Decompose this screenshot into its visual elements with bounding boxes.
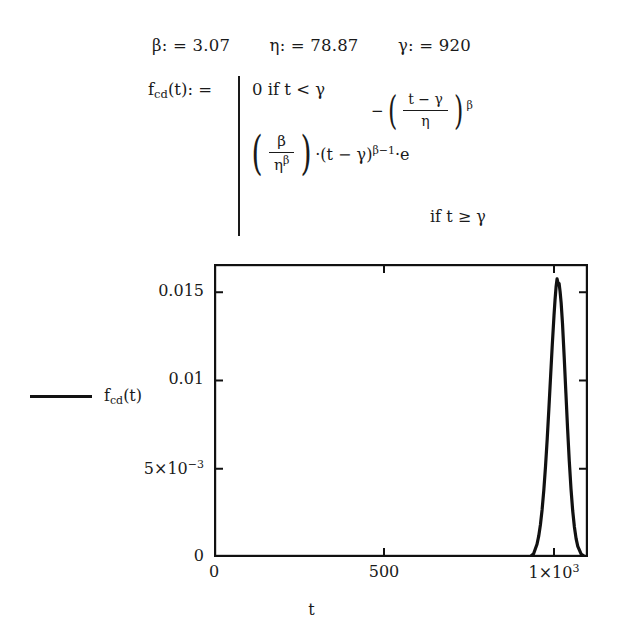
legend-label-subscript: cd bbox=[110, 394, 123, 407]
fraction-denominator-exponent: β bbox=[283, 154, 289, 167]
legend-label: fcd(t) bbox=[104, 386, 142, 407]
legend-label-tail: (t) bbox=[123, 386, 142, 405]
y-axis-tick-label: 0.015 bbox=[114, 281, 214, 300]
x-axis-tick-label: 0 bbox=[164, 562, 264, 581]
parameter-gamma-assign: : = bbox=[408, 36, 433, 55]
fraction-bar bbox=[269, 152, 294, 153]
function-name-subscript: cd bbox=[154, 87, 168, 101]
weibull-pdf-plot bbox=[214, 264, 588, 557]
exponent-left-paren: ( bbox=[388, 94, 397, 127]
exponent-minus-sign: − bbox=[371, 102, 385, 120]
case2-tail: ·(t − γ)β−1·e bbox=[315, 144, 409, 164]
parameter-beta-assign: : = bbox=[162, 36, 187, 55]
parameter-eta-value: 78.87 bbox=[310, 36, 358, 55]
exponent-expression: −(t − γη)β bbox=[371, 91, 473, 130]
chart-legend: fcd(t) bbox=[30, 386, 142, 407]
parameter-beta-symbol: β bbox=[152, 36, 162, 55]
x-axis-tick-label: 500 bbox=[334, 562, 434, 581]
function-name-arg: (t): = bbox=[168, 80, 212, 99]
exponent-right-paren: ) bbox=[454, 94, 463, 127]
parameter-beta: β: = 3.07 bbox=[152, 36, 230, 55]
exponent-denominator: η bbox=[403, 112, 448, 130]
piecewise-case-1: 0 if t < γ bbox=[252, 80, 325, 99]
plot-frame bbox=[215, 265, 587, 556]
plot-area bbox=[214, 264, 588, 557]
parameter-eta-assign: : = bbox=[280, 36, 305, 55]
fraction-denominator: ηβ bbox=[269, 154, 294, 176]
case2-factor: ·(t − γ) bbox=[315, 145, 372, 164]
piecewise-condition-2: if t ≥ γ bbox=[430, 207, 486, 226]
piecewise-brace bbox=[238, 76, 240, 236]
left-paren: ( bbox=[251, 135, 262, 173]
function-definition: fcd(t): = 0 if t < γ (βηβ) ·(t − γ)β−1·e… bbox=[0, 74, 623, 254]
fraction-group: (βηβ) bbox=[248, 132, 315, 176]
parameter-gamma: γ: = 920 bbox=[398, 36, 471, 55]
parameter-gamma-symbol: γ bbox=[398, 36, 408, 55]
y-axis-tick-label: 5×10−3 bbox=[114, 458, 214, 478]
fraction-numerator: β bbox=[269, 132, 294, 151]
function-name: fcd(t): = bbox=[148, 80, 212, 101]
legend-line-swatch bbox=[30, 395, 92, 398]
parameter-eta: η: = 78.87 bbox=[270, 36, 359, 55]
beta-over-eta-fraction: βηβ bbox=[266, 132, 297, 176]
exponent-fraction: t − γη bbox=[400, 91, 451, 130]
x-axis-tick-label: 1×103 bbox=[504, 562, 604, 582]
case2-factor-exponent: β−1 bbox=[372, 144, 395, 157]
parameter-beta-value: 3.07 bbox=[193, 36, 231, 55]
piecewise-case-2: (βηβ) ·(t − γ)β−1·e bbox=[248, 132, 410, 176]
y-axis-tick-label: 0.01 bbox=[114, 369, 214, 388]
exponent-power: β bbox=[466, 99, 472, 112]
parameter-gamma-value: 920 bbox=[439, 36, 471, 55]
exponent-fraction-bar bbox=[403, 110, 448, 111]
parameter-assignments: β: = 3.07 η: = 78.87 γ: = 920 bbox=[0, 36, 623, 55]
parameter-eta-symbol: η bbox=[270, 36, 280, 55]
mathcad-worksheet: β: = 3.07 η: = 78.87 γ: = 920 fcd(t): = … bbox=[0, 0, 623, 635]
exponent-numerator: t − γ bbox=[403, 91, 448, 109]
x-axis-title: t bbox=[0, 600, 623, 619]
right-paren: ) bbox=[301, 135, 312, 173]
case2-times-e: ·e bbox=[395, 145, 410, 164]
fraction-denominator-base: η bbox=[274, 156, 283, 174]
